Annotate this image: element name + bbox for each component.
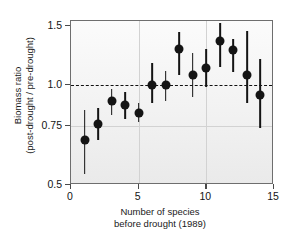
x-axis-title-line2: before drought (1989) xyxy=(40,218,280,230)
x-axis-title-line1: Number of species xyxy=(40,206,280,218)
error-bar xyxy=(246,31,248,103)
data-point xyxy=(148,80,157,89)
x-tick-label: 15 xyxy=(258,190,288,202)
data-point xyxy=(175,44,184,53)
data-point xyxy=(215,37,224,46)
x-tick-label: 10 xyxy=(190,190,220,202)
x-tick-mark xyxy=(205,184,206,189)
x-tick-label: 0 xyxy=(55,190,85,202)
x-axis-title: Number of species before drought (1989) xyxy=(40,206,280,230)
data-point xyxy=(242,70,251,79)
data-point xyxy=(94,120,103,129)
y-tick-label: 1.5 xyxy=(36,19,62,31)
data-point xyxy=(80,136,89,145)
x-tick-mark xyxy=(273,184,274,189)
data-point xyxy=(134,109,143,118)
y-tick-mark xyxy=(65,84,70,85)
x-tick-label: 5 xyxy=(123,190,153,202)
y-tick-mark xyxy=(65,25,70,26)
reference-line-ratio-1 xyxy=(71,85,272,86)
y-tick-label: 0.5 xyxy=(36,178,62,190)
y-tick-mark xyxy=(65,125,70,126)
y-tick-label: 0.75 xyxy=(36,119,62,131)
figure-scatter-biomass-ratio: Biomass ratio (post-drought / pre-drough… xyxy=(0,0,294,245)
data-point xyxy=(107,97,116,106)
y-axis-title-line1: Biomass ratio xyxy=(12,37,24,154)
gridline-vertical xyxy=(206,21,207,183)
x-tick-mark xyxy=(70,184,71,189)
y-axis-title-line2: (post-drought / pre-drought) xyxy=(23,37,35,154)
data-point xyxy=(256,91,265,100)
data-point xyxy=(121,100,130,109)
data-point xyxy=(202,64,211,73)
plot-area xyxy=(70,20,273,184)
gridline-vertical xyxy=(139,21,140,183)
data-point xyxy=(229,45,238,54)
error-bar xyxy=(233,39,235,72)
x-tick-mark xyxy=(138,184,139,189)
data-point xyxy=(188,70,197,79)
data-point xyxy=(161,80,170,89)
y-tick-label: 1.0 xyxy=(36,78,62,90)
